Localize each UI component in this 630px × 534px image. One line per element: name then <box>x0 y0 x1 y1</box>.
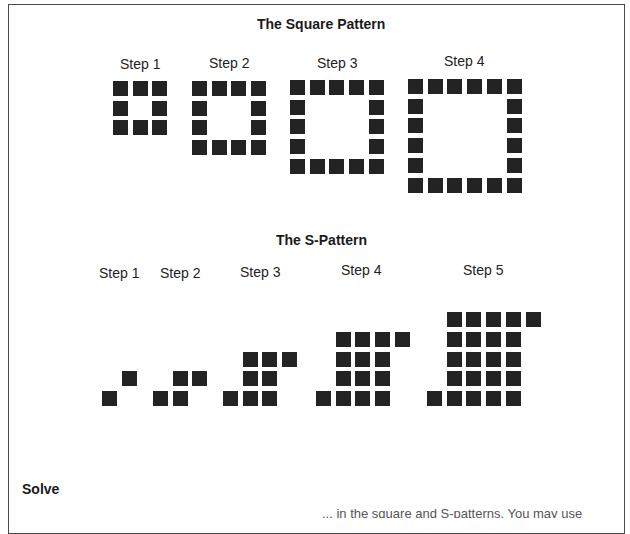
square-step-2-label: Step 2 <box>209 55 249 71</box>
square-tile <box>192 120 207 135</box>
square-tile <box>152 101 167 116</box>
s-tile <box>506 371 521 386</box>
square-tile <box>113 120 128 135</box>
square-tile <box>152 81 167 96</box>
square-tile <box>251 120 266 135</box>
square-tile <box>290 80 305 95</box>
s-tile <box>262 391 277 406</box>
s-tile <box>486 332 501 347</box>
square-tile <box>212 81 227 96</box>
square-tile <box>487 178 502 193</box>
square-tile <box>408 99 423 114</box>
square-tile <box>369 159 384 174</box>
s-tile <box>223 391 238 406</box>
square-tile <box>251 140 266 155</box>
s-tile <box>447 391 462 406</box>
s-tile <box>466 391 481 406</box>
square-tile <box>349 159 364 174</box>
square-tile <box>251 101 266 116</box>
square-tile <box>192 81 207 96</box>
s-tile <box>375 352 390 367</box>
s-tile <box>262 352 277 367</box>
square-tile <box>467 178 482 193</box>
s-tile <box>466 371 481 386</box>
s-tile <box>466 312 481 327</box>
s-tile <box>506 391 521 406</box>
s-tile <box>395 332 410 347</box>
s-tile <box>355 352 370 367</box>
square-tile <box>408 79 423 94</box>
s-tile <box>336 371 351 386</box>
square-tile <box>369 119 384 134</box>
s-tile <box>526 312 541 327</box>
square-tile <box>428 79 443 94</box>
s-tile <box>336 391 351 406</box>
solve-heading: Solve <box>22 481 59 497</box>
s-tile <box>486 312 501 327</box>
square-tile <box>192 101 207 116</box>
square-tile <box>487 79 502 94</box>
s-tile <box>447 352 462 367</box>
square-tile <box>310 80 325 95</box>
square-tile <box>369 100 384 115</box>
square-tile <box>290 139 305 154</box>
s-tile <box>447 312 462 327</box>
s-tile <box>243 352 258 367</box>
s-tile <box>102 391 117 406</box>
solve-instructions-cut: ... in the square and S-patterns. You ma… <box>22 509 620 518</box>
square-tile <box>290 159 305 174</box>
square-tile <box>428 178 443 193</box>
square-tile <box>447 79 462 94</box>
square-tile <box>133 120 148 135</box>
solve-partial-text: ... in the square and S-patterns. You ma… <box>22 509 582 518</box>
square-tile <box>447 178 462 193</box>
square-tile <box>310 159 325 174</box>
s-step-4-label: Step 4 <box>341 262 381 278</box>
square-tile <box>113 81 128 96</box>
s-tile <box>375 371 390 386</box>
square-tile <box>329 80 344 95</box>
square-tile <box>408 178 423 193</box>
square-pattern-title: The Square Pattern <box>257 16 385 32</box>
s-tile <box>192 371 207 386</box>
square-tile <box>231 140 246 155</box>
square-tile <box>152 120 167 135</box>
s-tile <box>355 332 370 347</box>
s-tile <box>153 391 168 406</box>
square-tile <box>329 159 344 174</box>
s-tile <box>243 391 258 406</box>
square-step-1-label: Step 1 <box>120 56 160 72</box>
square-step-4-label: Step 4 <box>444 53 484 69</box>
s-tile <box>506 332 521 347</box>
square-tile <box>212 140 227 155</box>
square-tile <box>231 81 246 96</box>
square-tile <box>507 178 522 193</box>
s-step-5-label: Step 5 <box>463 262 503 278</box>
square-tile <box>507 158 522 173</box>
square-tile <box>290 100 305 115</box>
s-tile <box>427 391 442 406</box>
square-tile <box>349 80 364 95</box>
square-tile <box>113 101 128 116</box>
square-tile <box>507 79 522 94</box>
square-tile <box>408 138 423 153</box>
square-tile <box>408 158 423 173</box>
s-tile <box>316 391 331 406</box>
s-tile <box>375 391 390 406</box>
s-tile <box>375 332 390 347</box>
square-tile <box>133 81 148 96</box>
s-tile <box>355 391 370 406</box>
s-pattern-title: The S-Pattern <box>276 232 367 248</box>
s-step-3-label: Step 3 <box>240 264 280 280</box>
s-tile <box>486 391 501 406</box>
s-tile <box>243 371 258 386</box>
s-tile <box>336 332 351 347</box>
s-tile <box>466 332 481 347</box>
square-tile <box>369 139 384 154</box>
square-tile <box>507 138 522 153</box>
s-tile <box>336 352 351 367</box>
s-tile <box>466 352 481 367</box>
s-tile <box>486 371 501 386</box>
square-tile <box>507 118 522 133</box>
s-tile <box>506 312 521 327</box>
